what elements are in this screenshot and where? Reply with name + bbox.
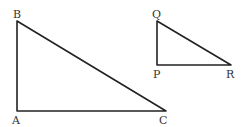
vertex-label-p: P	[153, 68, 161, 81]
triangle-abc-shape	[17, 21, 166, 111]
vertex-label-c: C	[159, 114, 167, 127]
triangle-pqr: Q P R	[152, 8, 235, 81]
vertex-label-q: Q	[152, 8, 161, 21]
vertex-label-r: R	[226, 68, 235, 81]
vertex-label-a: A	[11, 114, 21, 127]
triangle-pqr-shape	[157, 21, 231, 65]
vertex-label-b: B	[13, 8, 21, 21]
similar-triangles-diagram: B A C Q P R	[0, 0, 245, 127]
triangle-abc: B A C	[11, 8, 167, 127]
